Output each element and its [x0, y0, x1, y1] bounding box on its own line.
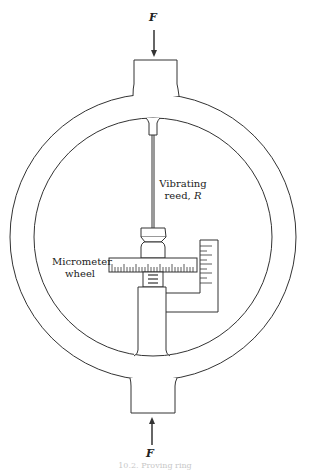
figure-caption: 10.2. Proving ring: [100, 460, 210, 470]
vibrating-reed: [152, 135, 154, 228]
proving-ring-diagram: [0, 0, 310, 470]
reed-symbol: R: [194, 190, 202, 201]
force-arrow-bottom: [149, 417, 155, 445]
reed-holder: [141, 228, 166, 258]
micrometer-label: Micrometer wheel: [52, 256, 108, 280]
micrometer-wheel: [109, 258, 197, 272]
force-arrow-top: [151, 30, 157, 57]
micrometer-label-line2: wheel: [52, 268, 108, 280]
force-label-bottom: F: [146, 448, 154, 460]
reed-label-line1: Vibrating: [158, 178, 208, 190]
screw-thread: [143, 272, 163, 287]
bottom-boss: [130, 378, 177, 413]
reed-clamp: [146, 118, 160, 135]
top-boss: [133, 60, 179, 96]
reed-label: Vibrating reed, R: [158, 178, 208, 202]
force-label-top: F: [149, 12, 157, 24]
micrometer-label-line1: Micrometer: [52, 256, 108, 268]
reed-label-line2: reed, R: [158, 190, 208, 202]
scale-bracket: [166, 240, 218, 312]
base-pillar: [134, 287, 170, 356]
